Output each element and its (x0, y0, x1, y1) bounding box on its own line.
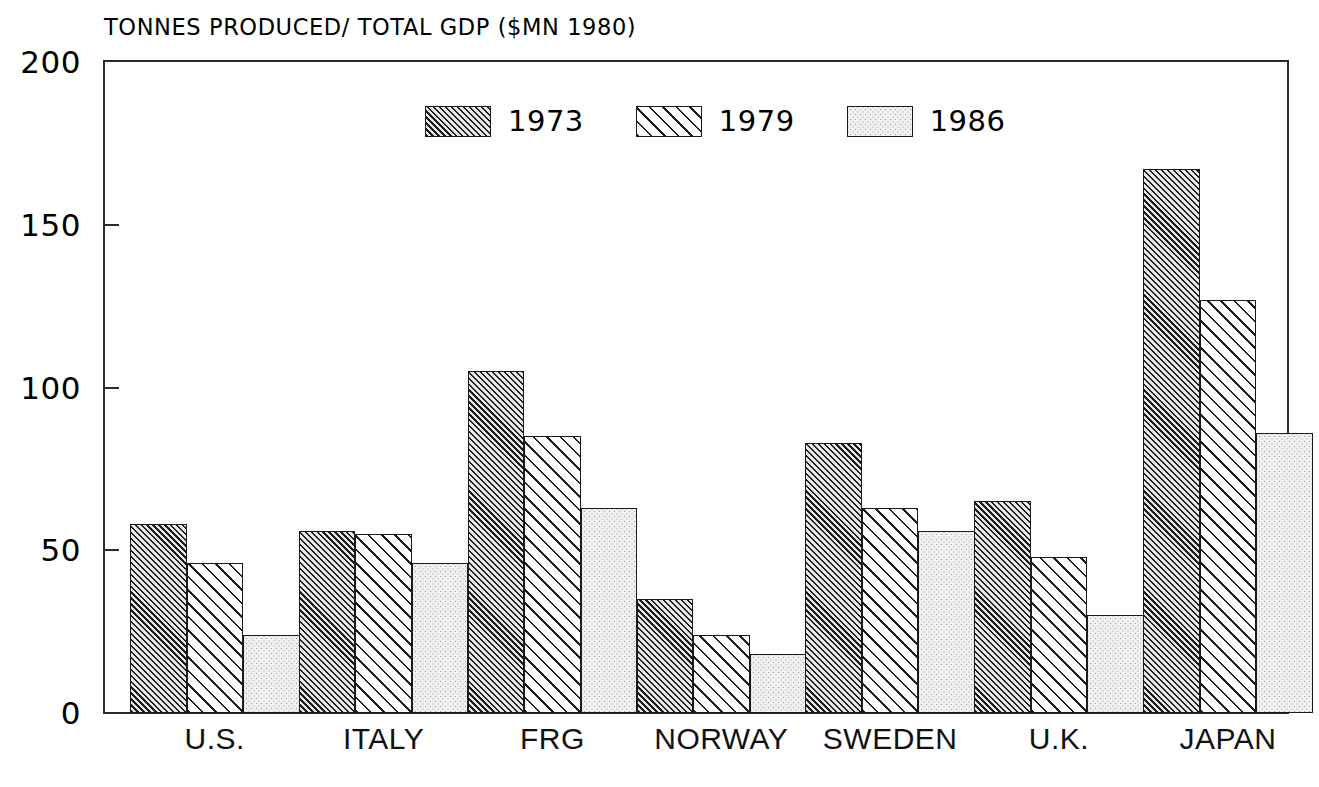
bar (355, 534, 412, 713)
y-tick-label: 0 (61, 695, 81, 731)
bar-group (612, 62, 781, 713)
bar (1031, 557, 1088, 713)
bar (637, 599, 694, 713)
bar (524, 436, 581, 713)
legend-swatch-icon (425, 106, 491, 137)
legend-swatch-icon (847, 106, 913, 137)
x-axis-label: ITALY (343, 722, 424, 756)
bar-group (274, 62, 443, 713)
y-tick-label: 100 (20, 370, 81, 406)
bar-group (780, 62, 949, 713)
legend-item: 1973 (425, 104, 636, 138)
bar (805, 443, 862, 713)
x-axis-label: U.K. (1029, 722, 1089, 756)
bar (468, 371, 525, 713)
x-axis: U.S.ITALYFRGNORWAYSWEDENU.K.JAPAN (105, 722, 1287, 772)
bar-chart: TONNES PRODUCED/ TOTAL GDP ($MN 1980) 05… (0, 0, 1319, 787)
y-tick-mark (103, 549, 119, 551)
bar (187, 563, 244, 713)
bar (974, 501, 1031, 713)
bar-group (105, 62, 274, 713)
legend-item: 1979 (636, 104, 847, 138)
bar (693, 635, 750, 713)
x-axis-label: NORWAY (654, 722, 788, 756)
legend-label: 1973 (508, 104, 584, 138)
x-axis-label: FRG (520, 722, 585, 756)
bar (862, 508, 919, 713)
legend-item: 1986 (847, 104, 1006, 138)
legend-label: 1979 (719, 104, 795, 138)
bar (299, 531, 356, 713)
y-tick-mark (103, 224, 119, 226)
bar (130, 524, 187, 713)
legend-swatch-icon (636, 106, 702, 137)
bar-group (443, 62, 612, 713)
plot-area (105, 62, 1287, 713)
legend-label: 1986 (930, 104, 1006, 138)
bar-group (949, 62, 1118, 713)
bar (1256, 433, 1313, 713)
x-axis-label: U.S. (185, 722, 245, 756)
y-tick-label: 150 (20, 207, 81, 243)
x-axis-label: SWEDEN (823, 722, 958, 756)
chart-legend: 197319791986 (425, 101, 1005, 141)
y-axis: 050100150200 (0, 0, 103, 787)
bar (1143, 169, 1200, 713)
chart-title: TONNES PRODUCED/ TOTAL GDP ($MN 1980) (104, 14, 636, 40)
y-tick-label: 200 (20, 44, 81, 80)
y-tick-mark (103, 387, 119, 389)
x-axis-label: JAPAN (1179, 722, 1276, 756)
bar-group (1118, 62, 1287, 713)
y-tick-label: 50 (41, 532, 81, 568)
bar (1200, 300, 1257, 713)
